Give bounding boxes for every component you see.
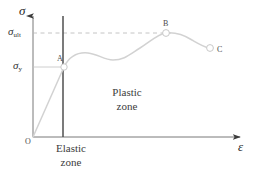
sigma-ult-subscript: ult — [13, 31, 20, 39]
point-a-label: A — [57, 55, 63, 63]
sigma-ult-tick-label: σult — [8, 26, 21, 37]
elastic-zone-line1: Elastic — [40, 142, 102, 156]
point-c-label: C — [217, 46, 222, 54]
origin-label: O — [25, 138, 31, 146]
point-a-marker — [61, 64, 67, 70]
elastic-zone-line2: zone — [40, 156, 102, 170]
plastic-zone-line2: zone — [95, 100, 159, 114]
stress-strain-diagram: σ ε σult σy O A B C Elastic zone Plastic… — [0, 0, 259, 179]
point-c-marker — [207, 45, 214, 52]
sigma-y-subscript: y — [18, 65, 22, 73]
elastic-region-line — [33, 67, 64, 137]
plastic-region-curve — [64, 33, 209, 67]
plastic-zone-line1: Plastic — [95, 86, 159, 100]
point-b-label: B — [163, 20, 168, 28]
point-b-marker — [163, 30, 170, 37]
sigma-stress-axis-label: σ — [19, 4, 25, 17]
plastic-zone-caption: Plastic zone — [95, 86, 159, 114]
epsilon-strain-axis-label: ε — [238, 140, 243, 153]
elastic-zone-caption: Elastic zone — [40, 142, 102, 170]
sigma-y-tick-label: σy — [13, 60, 22, 71]
